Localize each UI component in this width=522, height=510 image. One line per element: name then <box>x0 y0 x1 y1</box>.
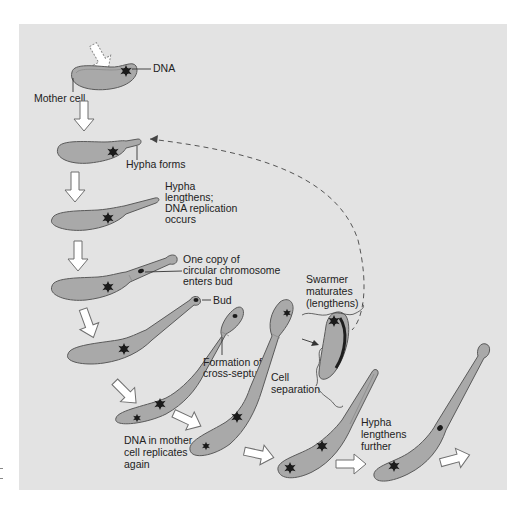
label-dna-mother-2: cell replicates <box>124 446 188 458</box>
label-swarmer-1: Swarmer <box>306 273 349 285</box>
arrow-right-icon <box>336 454 366 474</box>
label-swarmer-3: (lengthens) <box>306 297 359 309</box>
flagellum <box>318 388 343 407</box>
stage-9-hypha-lengthens-further <box>374 344 490 481</box>
label-hypha-further-2: lengthens <box>361 428 407 440</box>
label-hypha-further-1: Hypha <box>361 416 392 428</box>
label-bud: Bud <box>213 294 232 306</box>
label-swarmer-2: maturates <box>306 285 353 297</box>
arrow-down-icon <box>65 172 85 202</box>
label-cell-separation-2: separation <box>271 383 320 395</box>
label-hypha-further-3: further <box>361 440 392 452</box>
arrow-down-icon <box>68 241 88 271</box>
arrow-down-icon <box>108 375 143 410</box>
label-mother-cell: Mother cell <box>34 92 85 104</box>
label-one-copy-3: enters bud <box>183 275 233 287</box>
life-cycle-diagram: DNA Mother cell Hypha forms Hypha length… <box>0 0 522 510</box>
label-dna-mother-3: again <box>124 458 150 470</box>
label-dna: DNA <box>153 62 175 74</box>
dashed-arrowhead-icon <box>150 135 158 143</box>
stage-1-mother-cell <box>72 40 151 92</box>
arrow-right-icon <box>438 445 472 472</box>
label-hypha-forms: Hypha forms <box>126 158 186 170</box>
arrow-down-icon <box>74 306 103 341</box>
label-cell-separation-1: Cell <box>271 371 289 383</box>
arrow-down-icon <box>74 101 94 131</box>
label-hypha-lengthens-4: occurs <box>165 213 196 225</box>
label-dna-mother-1: DNA in mother <box>124 434 193 446</box>
swarmer-cell <box>302 304 364 379</box>
arrow-right-icon <box>242 441 276 467</box>
stage-3-hypha-lengthens <box>51 198 158 231</box>
